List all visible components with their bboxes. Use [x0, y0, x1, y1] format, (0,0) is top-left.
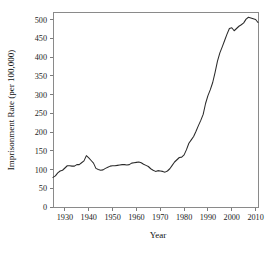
imprisonment-rate-line-chart: 050100150200250300350400450500 193019401… — [0, 0, 277, 254]
x-tick-label: 2000 — [224, 213, 240, 222]
plot-background — [53, 12, 258, 207]
x-tick-label: 1970 — [152, 213, 168, 222]
x-tick-label: 1930 — [57, 213, 73, 222]
x-tick-label: 1940 — [81, 213, 97, 222]
y-tick-label: 400 — [35, 53, 47, 62]
y-tick-label: 0 — [43, 203, 47, 212]
y-tick-label: 350 — [35, 72, 47, 81]
x-tick-label: 1960 — [128, 213, 144, 222]
y-tick-label: 150 — [35, 147, 47, 156]
y-tick-label: 500 — [35, 16, 47, 25]
y-tick-label: 200 — [35, 128, 47, 137]
x-axis-ticks: 193019401950196019701980199020002010 — [57, 207, 264, 222]
x-tick-label: 2010 — [247, 213, 263, 222]
y-axis-ticks: 050100150200250300350400450500 — [35, 16, 53, 213]
x-tick-label: 1980 — [176, 213, 192, 222]
chart-figure: 050100150200250300350400450500 193019401… — [0, 0, 277, 254]
y-tick-label: 450 — [35, 34, 47, 43]
x-axis-title: Year — [150, 230, 167, 240]
x-tick-label: 1990 — [200, 213, 216, 222]
y-axis-title: Imprisonment Rate (per 100,000) — [6, 50, 16, 170]
y-tick-label: 250 — [35, 109, 47, 118]
y-tick-label: 300 — [35, 91, 47, 100]
y-tick-label: 100 — [35, 166, 47, 175]
x-tick-label: 1950 — [104, 213, 120, 222]
y-tick-label: 50 — [39, 184, 47, 193]
